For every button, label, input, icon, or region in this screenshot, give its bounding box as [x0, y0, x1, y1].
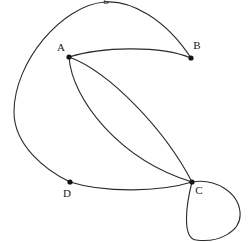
graph-canvas: A B C D g [0, 0, 248, 242]
edge-a-c-upper [69, 57, 192, 182]
node-d-label: D [63, 187, 71, 199]
node-b-label: B [193, 39, 200, 51]
node-a-label: A [57, 41, 65, 53]
node-a-dot[interactable] [66, 54, 71, 59]
node-d-dot[interactable] [67, 179, 72, 184]
clipped-title-text: g [103, 0, 109, 4]
node-c-label: C [195, 184, 202, 196]
edge-top-outer-arc [14, 2, 191, 182]
node-c-dot[interactable] [189, 179, 194, 184]
node-b-dot[interactable] [188, 55, 193, 60]
edge-d-c [70, 182, 192, 190]
edge-a-b [69, 49, 191, 58]
edge-a-c-lower [69, 57, 192, 182]
graph-figure: A B C D g [0, 0, 248, 242]
